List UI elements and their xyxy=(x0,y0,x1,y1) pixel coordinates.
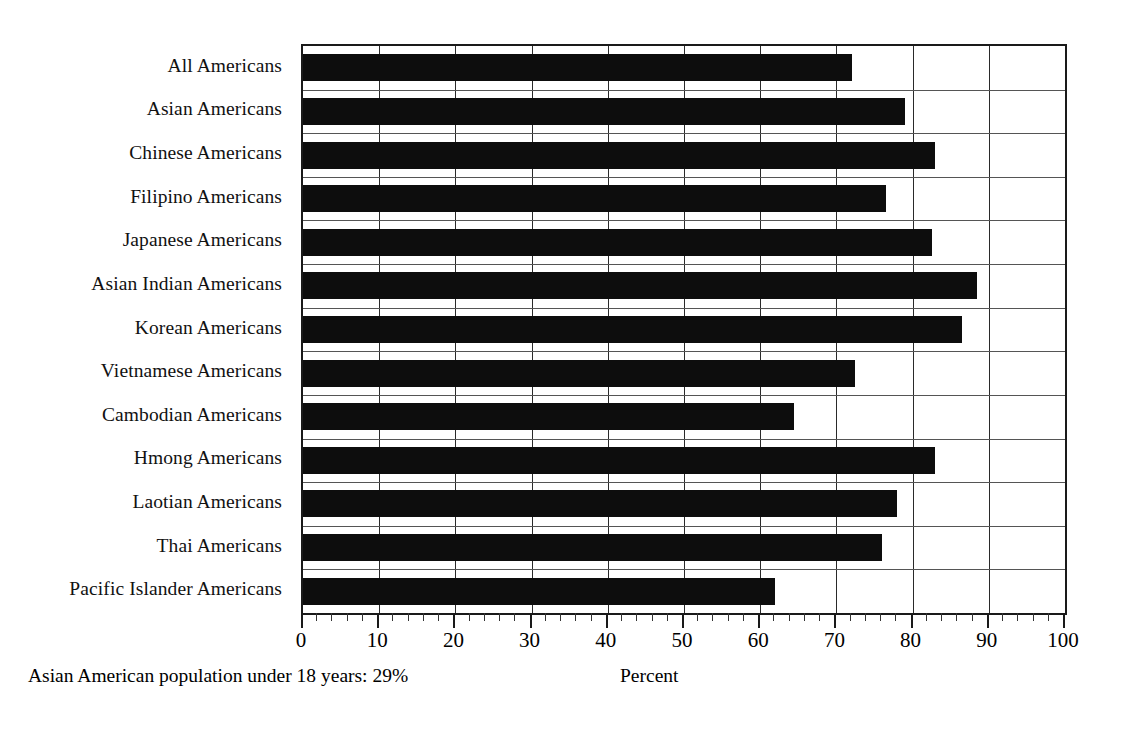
bar xyxy=(303,578,775,605)
tick-minor xyxy=(865,613,866,621)
tick-major xyxy=(758,613,760,628)
category-label: Pacific Islander Americans xyxy=(0,579,296,599)
tick-minor xyxy=(514,613,515,621)
chart-footnote: Asian American population under 18 years… xyxy=(28,665,408,687)
x-tick-label: 50 xyxy=(672,630,693,651)
bar xyxy=(303,185,886,212)
category-label: Filipino Americans xyxy=(0,187,296,207)
tick-minor xyxy=(469,613,470,621)
x-axis-tick-labels: 0102030405060708090100 xyxy=(301,630,1063,660)
tick-minor xyxy=(545,613,546,621)
category-label: Asian Americans xyxy=(0,99,296,119)
gridline-category xyxy=(303,264,1065,265)
x-tick-label: 0 xyxy=(296,630,307,651)
category-label: Korean Americans xyxy=(0,318,296,338)
category-label: Vietnamese Americans xyxy=(0,361,296,381)
x-tick-label: 80 xyxy=(900,630,921,651)
bar xyxy=(303,229,932,256)
gridline-category xyxy=(303,482,1065,483)
tick-minor xyxy=(621,613,622,621)
bar xyxy=(303,360,855,387)
tick-major xyxy=(834,613,836,628)
tick-major xyxy=(911,613,913,628)
tick-minor xyxy=(438,613,439,621)
tick-minor xyxy=(956,613,957,621)
bar xyxy=(303,98,905,125)
tick-minor xyxy=(575,613,576,621)
category-label: Asian Indian Americans xyxy=(0,274,296,294)
bar xyxy=(303,403,794,430)
gridline-category xyxy=(303,133,1065,134)
tick-minor xyxy=(560,613,561,621)
tick-minor xyxy=(1033,613,1034,621)
tick-minor xyxy=(895,613,896,621)
plot-area xyxy=(301,44,1067,615)
plot-inner xyxy=(303,46,1065,613)
tick-minor xyxy=(408,613,409,621)
tick-minor xyxy=(941,613,942,621)
x-tick-label: 20 xyxy=(443,630,464,651)
category-label: Thai Americans xyxy=(0,536,296,556)
gridline-category xyxy=(303,90,1065,91)
tick-minor xyxy=(499,613,500,621)
tick-minor xyxy=(591,613,592,621)
tick-minor xyxy=(362,613,363,621)
tick-minor xyxy=(773,613,774,621)
tick-minor xyxy=(667,613,668,621)
tick-major xyxy=(530,613,532,628)
tick-minor xyxy=(850,613,851,621)
tick-minor xyxy=(789,613,790,621)
tick-minor xyxy=(926,613,927,621)
gridline-category xyxy=(303,351,1065,352)
tick-major xyxy=(453,613,455,628)
gridline-category xyxy=(303,177,1065,178)
bar xyxy=(303,447,935,474)
bar xyxy=(303,534,882,561)
gridline-category xyxy=(303,308,1065,309)
tick-minor xyxy=(728,613,729,621)
category-label: Japanese Americans xyxy=(0,230,296,250)
gridline-category xyxy=(303,439,1065,440)
tick-major xyxy=(301,613,303,628)
x-tick-label: 40 xyxy=(595,630,616,651)
category-label: Cambodian Americans xyxy=(0,405,296,425)
tick-major xyxy=(987,613,989,628)
gridline-category xyxy=(303,569,1065,570)
tick-minor xyxy=(652,613,653,621)
bar-chart: All AmericansAsian AmericansChinese Amer… xyxy=(0,0,1130,731)
x-tick-label: 10 xyxy=(367,630,388,651)
gridline-vertical xyxy=(989,46,990,613)
tick-minor xyxy=(484,613,485,621)
tick-minor xyxy=(636,613,637,621)
tick-minor xyxy=(347,613,348,621)
bar xyxy=(303,490,897,517)
tick-minor xyxy=(423,613,424,621)
tick-major xyxy=(682,613,684,628)
gridline-category xyxy=(303,395,1065,396)
x-tick-label: 70 xyxy=(824,630,845,651)
tick-minor xyxy=(743,613,744,621)
gridline-category xyxy=(303,220,1065,221)
tick-minor xyxy=(316,613,317,621)
tick-minor xyxy=(819,613,820,621)
tick-major xyxy=(377,613,379,628)
tick-minor xyxy=(392,613,393,621)
tick-minor xyxy=(1002,613,1003,621)
x-tick-label: 30 xyxy=(519,630,540,651)
bar xyxy=(303,54,852,81)
tick-minor xyxy=(880,613,881,621)
tick-minor xyxy=(972,613,973,621)
gridline-category xyxy=(303,526,1065,527)
x-tick-label: 100 xyxy=(1047,630,1079,651)
tick-minor xyxy=(331,613,332,621)
category-label: All Americans xyxy=(0,56,296,76)
x-axis-title: Percent xyxy=(620,665,678,687)
tick-minor xyxy=(697,613,698,621)
tick-major xyxy=(1063,613,1065,628)
bar xyxy=(303,316,962,343)
x-tick-label: 90 xyxy=(976,630,997,651)
tick-minor xyxy=(804,613,805,621)
tick-minor xyxy=(1048,613,1049,621)
category-label: Hmong Americans xyxy=(0,448,296,468)
bar xyxy=(303,272,977,299)
